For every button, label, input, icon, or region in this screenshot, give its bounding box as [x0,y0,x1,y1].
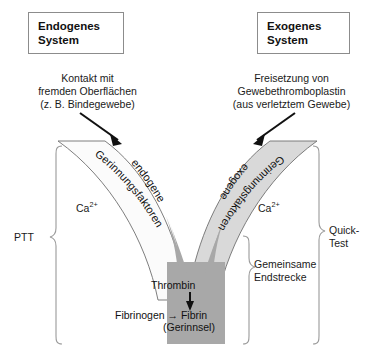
quick-test-bracket [313,146,325,344]
quick-test-bracket-label: Quick- Test [329,224,373,250]
calcium-label-right: Ca2+ [258,200,280,214]
common-pathway-bracket [243,236,255,344]
funnel-graphic: endogene Gerinnungsfaktoren exogene Geri… [0,0,373,356]
ptt-bracket-label: PTT [14,231,54,244]
calcium-label-left: Ca2+ [76,200,98,214]
coagulation-cascade-diagram: Endogenes System Exogenes System Kontakt… [0,0,373,356]
common-pathway-bracket-label: Gemeinsame Endstrecke [254,258,338,284]
ptt-bracket [50,146,62,344]
thrombin-label: Thrombin [151,279,195,292]
clot-label: (Gerinnsel) [163,321,215,334]
